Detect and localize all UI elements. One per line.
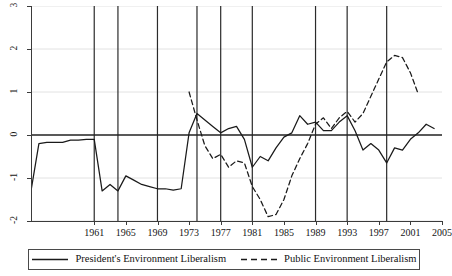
x-tick-label: 2001 (400, 227, 420, 238)
legend-entry-president: President's Environment Liberalism (31, 254, 226, 265)
y-tick-label: -1 (9, 166, 19, 188)
legend-key-solid-line-icon (31, 255, 69, 264)
y-tick-label: -2 (9, 209, 19, 231)
x-tick-label: 1961 (84, 227, 104, 238)
series-line-president (31, 114, 434, 191)
x-tick-label: 1985 (274, 227, 294, 238)
x-tick-label: 1965 (116, 227, 136, 238)
x-tick (126, 221, 127, 225)
y-axis (31, 6, 32, 221)
x-tick-label: 1973 (179, 227, 199, 238)
x-tick (379, 221, 380, 225)
y-tick (27, 49, 31, 50)
y-tick (27, 178, 31, 179)
legend-label-president: President's Environment Liberalism (75, 254, 226, 265)
x-tick-label: 1989 (306, 227, 326, 238)
x-tick-label: 2005 (432, 227, 452, 238)
y-tick-label: 1 (9, 80, 19, 102)
x-tick-label: 1969 (148, 227, 168, 238)
series-line-public (189, 55, 418, 216)
x-tick-label: 1997 (369, 227, 389, 238)
legend-key-dashed-line-icon (240, 255, 278, 264)
legend-label-public: Public Environment Liberalism (284, 254, 416, 265)
x-tick (347, 221, 348, 225)
x-tick (442, 221, 443, 225)
x-tick (158, 221, 159, 225)
x-tick-label: 1993 (337, 227, 357, 238)
x-tick (252, 221, 253, 225)
y-tick-label: 3 (9, 0, 19, 16)
x-tick (221, 221, 222, 225)
y-tick (27, 92, 31, 93)
chart-legend: President's Environment Liberalism Publi… (28, 249, 420, 270)
plot-svg (31, 6, 442, 221)
plot-area (31, 6, 442, 221)
y-tick (27, 221, 31, 222)
y-tick (27, 135, 31, 136)
y-tick-label: 2 (9, 37, 19, 59)
x-tick (410, 221, 411, 225)
legend-entry-public: Public Environment Liberalism (240, 254, 416, 265)
y-tick-label: 0 (9, 123, 19, 145)
x-tick-label: 1977 (211, 227, 231, 238)
x-tick (94, 221, 95, 225)
x-tick (284, 221, 285, 225)
x-tick-label: 1981 (242, 227, 262, 238)
x-tick (189, 221, 190, 225)
x-axis (31, 221, 442, 222)
y-tick (27, 6, 31, 7)
x-tick (316, 221, 317, 225)
